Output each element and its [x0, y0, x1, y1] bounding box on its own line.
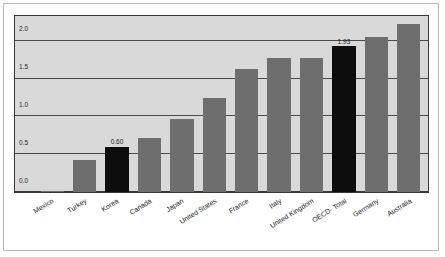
y-tick-label: 2.0 — [19, 26, 28, 34]
bar-korea[interactable]: 0.60 — [105, 147, 128, 192]
bar-slot — [360, 16, 392, 192]
bar-italy[interactable] — [267, 58, 290, 192]
bar-slot — [295, 16, 327, 192]
bar-slot — [198, 16, 230, 192]
bar-slot — [231, 16, 263, 192]
bar-turkey[interactable] — [73, 160, 96, 192]
bar-oecd-total[interactable]: 1.93 — [332, 46, 355, 192]
bar-france[interactable] — [235, 69, 258, 192]
bar-united-kingdom[interactable] — [300, 58, 323, 192]
x-axis-category-labels: MexicoTurkeyKoreaCanadaJapanUnited State… — [35, 195, 425, 251]
x-axis-label-japan: Japan — [165, 197, 185, 213]
x-axis-label-turkey: Turkey — [66, 197, 88, 214]
plot-inner: 2.01.51.00.50.0 0.601.93 — [15, 16, 428, 192]
x-axis-label-mexico: Mexico — [32, 197, 55, 215]
bar-slot — [166, 16, 198, 192]
bar-slot — [393, 16, 425, 192]
bar-slot: 0.60 — [101, 16, 133, 192]
y-tick-label: 1.0 — [19, 101, 28, 109]
bar-slot — [263, 16, 295, 192]
x-axis-label-oecd-total: OECD- Total — [311, 197, 348, 224]
chart-figure: 2.01.51.00.50.0 0.601.93 MexicoTurkeyKor… — [3, 3, 439, 251]
x-axis-label-korea: Korea — [100, 197, 120, 213]
y-tick-label: 0.5 — [19, 139, 28, 147]
y-tick-label: 0.0 — [19, 177, 28, 185]
x-axis-label-germany: Germany — [352, 197, 380, 218]
bar-slot: 1.93 — [328, 16, 360, 192]
bar-united-states[interactable] — [203, 98, 226, 192]
x-axis-label-australia: Australia — [386, 197, 413, 217]
bar-germany[interactable] — [365, 37, 388, 192]
bar-canada[interactable] — [138, 138, 161, 192]
bar-slot — [36, 16, 68, 192]
bar-mexico[interactable] — [41, 191, 64, 193]
bar-value-label: 1.93 — [338, 39, 351, 46]
bar-australia[interactable] — [397, 24, 420, 192]
y-tick-label: 1.5 — [19, 64, 28, 72]
x-axis-label-canada: Canada — [128, 197, 153, 216]
x-axis-label-italy: Italy — [268, 197, 283, 210]
x-axis-label-france: France — [228, 197, 250, 214]
plot-area: 2.01.51.00.50.0 0.601.93 — [14, 15, 429, 193]
bar-value-label: 0.60 — [111, 139, 124, 146]
bar-group: 0.601.93 — [36, 16, 425, 192]
bar-slot — [68, 16, 100, 192]
bar-slot — [133, 16, 165, 192]
bar-japan[interactable] — [170, 119, 193, 192]
